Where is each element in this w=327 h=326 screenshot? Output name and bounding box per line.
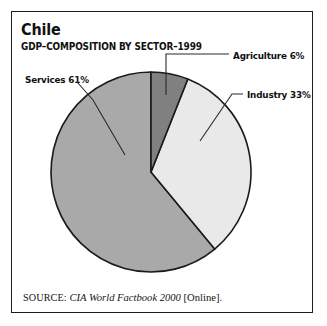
figure-panel: Chile GDP–COMPOSITION BY SECTOR–1999 Agr…: [0, 0, 327, 326]
source-note: SOURCE: CIA World Factbook 2000 [Online]…: [23, 292, 222, 303]
slice-label-services: Services 61%: [25, 74, 89, 85]
source-label: SOURCE:: [23, 292, 67, 303]
slice-label-industry: Industry 33%: [247, 89, 311, 100]
pie-chart: [0, 0, 327, 326]
source-work-title: CIA World Factbook 2000: [69, 292, 181, 303]
source-suffix: [Online].: [184, 292, 223, 303]
slice-label-agriculture: Agriculture 6%: [233, 50, 304, 61]
